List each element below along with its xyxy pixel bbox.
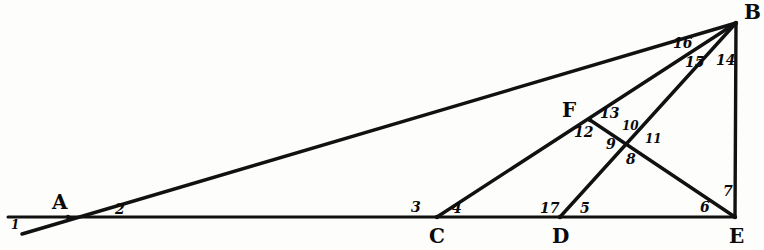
angle-8: 8 xyxy=(626,152,636,166)
vertex-a xyxy=(66,215,70,219)
angle-4: 4 xyxy=(452,201,462,215)
vertex-e xyxy=(733,215,737,219)
angle-14: 14 xyxy=(716,53,735,67)
point-label-d: D xyxy=(552,226,569,246)
point-label-e: E xyxy=(729,226,744,246)
angle-1: 1 xyxy=(11,219,19,231)
angle-11: 11 xyxy=(645,133,662,145)
geometry-figure: ABCDEF 1234567891011121314151617 xyxy=(0,0,764,250)
point-label-b: B xyxy=(744,2,761,22)
point-label-a: A xyxy=(52,192,68,212)
vertex-b xyxy=(734,21,738,25)
angle-6: 6 xyxy=(700,200,710,214)
vertex-c xyxy=(435,215,439,219)
angle-3: 3 xyxy=(411,200,421,214)
angle-17: 17 xyxy=(540,201,559,215)
angle-2: 2 xyxy=(115,202,125,216)
point-label-c: C xyxy=(429,226,445,246)
angle-13: 13 xyxy=(600,106,619,120)
angle-16: 16 xyxy=(673,36,692,50)
angle-10: 10 xyxy=(622,120,639,132)
angle-15: 15 xyxy=(685,55,704,69)
vertex-f xyxy=(588,118,592,122)
angle-9: 9 xyxy=(606,137,616,151)
angle-5: 5 xyxy=(580,201,590,215)
angle-12: 12 xyxy=(574,125,593,139)
segment-F-to-E xyxy=(590,120,735,217)
angle-7: 7 xyxy=(723,184,733,198)
point-label-f: F xyxy=(562,100,576,120)
